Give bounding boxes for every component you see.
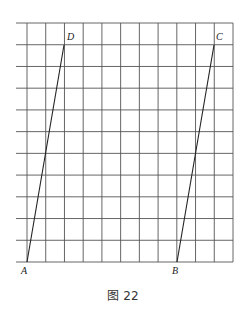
square-grid — [16, 23, 233, 262]
grid-figure: A B C D — [0, 0, 246, 313]
label-a: A — [20, 265, 28, 276]
figure-caption: 图 22 — [0, 286, 246, 303]
label-d: D — [66, 31, 75, 42]
label-b: B — [172, 265, 178, 276]
label-c: C — [216, 31, 223, 42]
